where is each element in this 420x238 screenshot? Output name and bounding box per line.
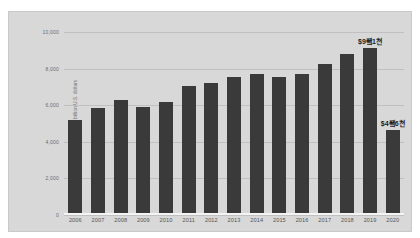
bar-2009[interactable]: [136, 107, 150, 213]
bar-2006[interactable]: [68, 120, 82, 213]
x-axis-labels: 2006200720082009201020112012201320142015…: [64, 217, 404, 223]
bar-slot: $9죀1천: [359, 32, 382, 213]
bar-2019[interactable]: [363, 48, 377, 213]
bar-slot: [291, 32, 314, 213]
bar-2014[interactable]: [250, 74, 264, 213]
gridline-0: 0: [64, 215, 404, 216]
x-tick-label-2011: 2011: [177, 217, 200, 223]
x-tick-label-2012: 2012: [200, 217, 223, 223]
bar-2007[interactable]: [91, 108, 105, 213]
x-tick-label-2007: 2007: [87, 217, 110, 223]
x-axis-baseline: [64, 213, 404, 215]
y-tick-label-6000: 6,000: [45, 102, 59, 108]
bar-slot: [268, 32, 291, 213]
y-tick-label-2000: 2,000: [45, 175, 59, 181]
bar-slot: [223, 32, 246, 213]
bar-2016[interactable]: [295, 74, 309, 213]
x-tick-label-2009: 2009: [132, 217, 155, 223]
y-tick-label-10000: 10,000: [43, 29, 60, 35]
x-tick-label-2013: 2013: [223, 217, 246, 223]
chart-screenshot: 10,000 8,000 6,000 4,000 2,000 0 Contrib…: [0, 0, 420, 238]
bar-slot: [313, 32, 336, 213]
x-tick-label-2019: 2019: [359, 217, 382, 223]
bar-slot: [200, 32, 223, 213]
plot-area: 10,000 8,000 6,000 4,000 2,000 0 Contrib…: [64, 32, 404, 215]
bar-2020[interactable]: [386, 130, 400, 213]
bar-2010[interactable]: [159, 102, 173, 213]
bar-slot: [87, 32, 110, 213]
x-tick-label-2020: 2020: [381, 217, 404, 223]
bar-2011[interactable]: [182, 86, 196, 213]
bar-series: $9죀1천$4죀6천: [64, 32, 404, 213]
bar-slot: [177, 32, 200, 213]
x-tick-label-2018: 2018: [336, 217, 359, 223]
x-tick-label-2017: 2017: [313, 217, 336, 223]
bar-slot: [132, 32, 155, 213]
x-tick-label-2016: 2016: [291, 217, 314, 223]
y-tick-label-0: 0: [56, 212, 59, 218]
bar-slot: [336, 32, 359, 213]
x-tick-label-2010: 2010: [155, 217, 178, 223]
x-tick-label-2015: 2015: [268, 217, 291, 223]
x-tick-label-2014: 2014: [245, 217, 268, 223]
bar-2008[interactable]: [114, 100, 128, 213]
bar-slot: [64, 32, 87, 213]
bar-slot: $4죀6천: [381, 32, 404, 213]
chart-figure: 10,000 8,000 6,000 4,000 2,000 0 Contrib…: [8, 11, 412, 232]
y-tick-label-8000: 8,000: [45, 66, 59, 72]
bar-annotation-2019: $9죀1천: [358, 36, 382, 46]
bar-2017[interactable]: [318, 64, 332, 213]
bar-slot: [109, 32, 132, 213]
bar-2013[interactable]: [227, 77, 241, 213]
bar-slot: [155, 32, 178, 213]
bar-slot: [245, 32, 268, 213]
bar-2015[interactable]: [272, 77, 286, 213]
bar-annotation-2020: $4죀6천: [381, 118, 405, 128]
y-tick-label-4000: 4,000: [45, 139, 59, 145]
bar-2012[interactable]: [204, 83, 218, 213]
bar-2018[interactable]: [340, 54, 354, 213]
x-tick-label-2006: 2006: [64, 217, 87, 223]
x-tick-label-2008: 2008: [109, 217, 132, 223]
